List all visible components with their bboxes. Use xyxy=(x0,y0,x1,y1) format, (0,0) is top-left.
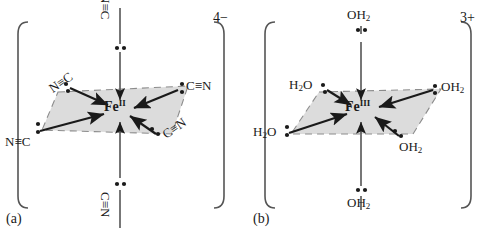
bracket-left xyxy=(265,22,275,208)
aqua-ligand-axial-top-label: OH2 xyxy=(347,8,370,23)
metal-center-label-a: FeII xyxy=(104,99,126,114)
charge-label-b: 3+ xyxy=(460,11,475,25)
complex-panel-a: FeII 4− (a) N≡C C≡N N≡C N≡C C≡N C≡N xyxy=(0,0,247,235)
panel-b-graphics xyxy=(247,0,494,235)
aqua-ligand-axial-bottom-label: OH2 xyxy=(347,196,370,211)
cyanide-ligand-axial-bottom-label: C≡N xyxy=(112,192,137,205)
bracket-right xyxy=(461,22,471,208)
aqua-ligand-right-label: OH2 xyxy=(441,80,464,95)
complex-panel-b: FeIII 3+ (b) OH2 OH2 H2O H2O OH2 OH2 xyxy=(247,0,494,235)
aqua-ligand-upper-left-label: H2O xyxy=(289,78,312,93)
cyanide-ligand-right-label: C≡N xyxy=(186,79,211,92)
bracket-right xyxy=(214,22,224,208)
aqua-ligand-lower-right-label: OH2 xyxy=(399,140,422,155)
cyanide-ligand-axial-top-label: N≡C xyxy=(112,0,137,7)
bracket-left xyxy=(18,22,28,208)
panel-tag-b: (b) xyxy=(253,212,269,226)
charge-label-a: 4− xyxy=(213,11,228,25)
cyanide-ligand-lower-right-label: C≡N xyxy=(160,130,185,143)
metal-center-label-b: FeIII xyxy=(345,99,370,114)
panel-tag-a: (a) xyxy=(6,212,22,226)
cyanide-ligand-upper-left-label: N≡C xyxy=(54,82,79,95)
cyanide-ligand-lower-left-label: N≡C xyxy=(5,135,30,148)
aqua-ligand-lower-left-label: H2O xyxy=(253,125,276,140)
